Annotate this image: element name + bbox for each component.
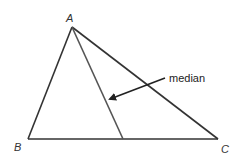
- vertex-label-a: A: [65, 12, 73, 24]
- median-label: median: [169, 72, 205, 84]
- median-line: [72, 27, 123, 139]
- triangle-diagram: median A B C: [0, 0, 241, 159]
- median-arrow: [110, 78, 165, 99]
- vertex-label-b: B: [14, 141, 21, 153]
- side-ab: [28, 27, 72, 139]
- vertex-label-c: C: [221, 143, 229, 155]
